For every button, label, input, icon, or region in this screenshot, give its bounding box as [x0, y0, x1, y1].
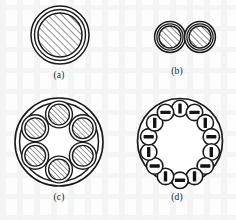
panel-a-svg — [29, 4, 91, 66]
panel-c-svg — [13, 96, 105, 188]
figure-page: (a) — [0, 0, 236, 220]
panel-c-core-2-fill — [72, 118, 93, 139]
panel-d-marker-1-bar-vertical — [178, 103, 181, 113]
panel-c-core-5-fill — [25, 145, 46, 166]
panel-d-svg — [135, 96, 225, 186]
panel-d-marker-14-bar-horizontal — [160, 111, 170, 114]
panel-c-core-3-fill — [72, 145, 93, 166]
panel-a-core — [38, 13, 82, 57]
panel-d-marker-3-bar-vertical — [204, 118, 207, 128]
panel-c-core-3 — [69, 142, 96, 169]
panel-b-right-core — [189, 26, 211, 48]
panel-d-marker-5-bar-vertical — [210, 147, 213, 157]
panel-d-marker-14 — [157, 104, 173, 120]
panel-d-marker-6-bar-horizontal — [200, 164, 210, 167]
panel-c-core-4-fill — [49, 159, 70, 180]
panel-c-core-5 — [22, 142, 49, 169]
panel-d-marker-2-bar-horizontal — [189, 111, 199, 114]
panel-b-unit-left — [155, 22, 186, 53]
panel-d-marker-10-bar-horizontal — [150, 164, 160, 167]
panel-c-figure — [13, 96, 105, 188]
panel-c-caption: (c) — [0, 192, 118, 202]
panel-a-caption: (a) — [0, 70, 118, 80]
panel-b-caption: (b) — [118, 66, 236, 76]
panel-d-marker-4 — [203, 129, 219, 145]
panel-d-marker-4-bar-horizontal — [206, 135, 216, 138]
panel-d-caption: (d) — [118, 192, 236, 202]
panel-d-marker-9-bar-vertical — [164, 171, 167, 181]
panel-c-core-2 — [69, 115, 96, 142]
panel-c-core-1 — [46, 101, 73, 128]
panel-a-figure — [29, 4, 91, 66]
panel-b-svg — [154, 17, 216, 57]
panel-d-marker-12-bar-horizontal — [144, 135, 154, 138]
panel-c-core-6 — [22, 115, 49, 142]
panel-c-core-1-fill — [49, 104, 70, 125]
panel-b-left-core — [159, 26, 181, 48]
panel-c: (c) — [0, 94, 118, 220]
panel-a: (a) — [0, 2, 118, 94]
panel-c-core-6-fill — [25, 118, 46, 139]
panel-c-core-4 — [46, 156, 73, 183]
panel-d-marker-13-bar-vertical — [153, 118, 156, 128]
panel-d-marker-8-bar-horizontal — [175, 179, 185, 182]
panel-d-marker-11-bar-vertical — [147, 147, 150, 157]
panel-d-marker-7-bar-vertical — [193, 171, 196, 181]
panel-b: (b) — [118, 2, 236, 94]
panel-d: (d) — [118, 94, 236, 220]
panel-b-unit-right — [185, 22, 216, 53]
panel-d-marker-11 — [141, 144, 157, 160]
panel-d-figure — [135, 96, 225, 186]
panel-b-figure — [154, 17, 216, 57]
